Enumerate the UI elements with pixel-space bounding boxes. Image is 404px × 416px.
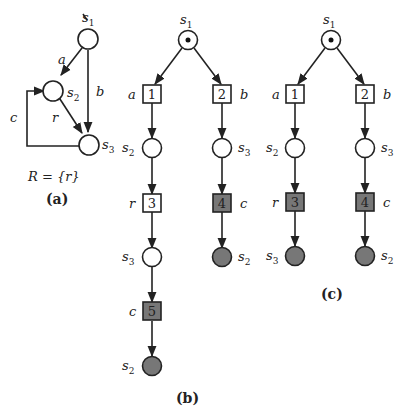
svg-text:s3: s3 [266, 248, 279, 266]
svg-text:s2: s2 [381, 248, 393, 266]
svg-text:s2: s2 [122, 140, 134, 158]
formula: R = {r} [27, 169, 80, 184]
svg-text:s3: s3 [381, 140, 394, 158]
svg-text:5: 5 [148, 304, 156, 319]
condition-s3-cutoff [286, 247, 305, 266]
condition-s3 [143, 248, 162, 267]
svg-text:4: 4 [218, 196, 226, 211]
svg-text:s2: s2 [122, 358, 134, 376]
condition-s2-cutoff [213, 248, 232, 267]
label-edge-r: r [52, 110, 59, 125]
condition-s2-cutoff [356, 247, 375, 266]
svg-text:2: 2 [218, 87, 226, 102]
svg-text:a: a [128, 87, 136, 102]
token [186, 38, 191, 43]
token [329, 38, 334, 43]
panel-c-unfolding: s1 1 a 2 b 3 r 4 c s2 s3 s3 s2 (c) [266, 12, 394, 302]
svg-text:s3: s3 [238, 140, 251, 158]
svg-text:c: c [240, 196, 248, 211]
panel-a-transition-system: s1 s2 s3 a b r c R = {r} (a) [10, 10, 115, 207]
svg-text:a: a [272, 87, 280, 102]
svg-text:c: c [129, 304, 137, 319]
svg-text:c: c [383, 195, 391, 210]
svg-text:1: 1 [148, 87, 156, 102]
svg-text:s3: s3 [122, 249, 135, 267]
unfolding-diagram: s1 s2 s3 a b r c R = {r} (a) s1 1 a 2 b … [0, 0, 404, 416]
condition-s2-cutoff [143, 357, 162, 376]
condition-s2 [143, 139, 162, 158]
condition-s2 [286, 139, 305, 158]
state-s1 [78, 29, 98, 49]
label-edge-c: c [10, 110, 18, 125]
panel-b-unfolding: s1 1 a 2 b 3 r 4 c 5 c s2 s3 s3 s2 [122, 12, 251, 406]
svg-text:b: b [240, 87, 248, 102]
label-root: s1 [180, 12, 192, 30]
svg-text:1: 1 [291, 87, 299, 102]
svg-text:3: 3 [148, 196, 156, 211]
svg-text:s2: s2 [238, 249, 250, 267]
label-s1: s1 [82, 10, 94, 28]
label-edge-b: b [96, 84, 104, 99]
state-s3 [79, 135, 99, 155]
svg-text:b: b [383, 87, 391, 102]
svg-text:4: 4 [361, 195, 369, 210]
condition-s3 [356, 139, 375, 158]
label-s3: s3 [102, 137, 115, 155]
svg-text:2: 2 [361, 87, 369, 102]
state-s2 [43, 81, 63, 101]
caption-a: (a) [46, 191, 68, 207]
svg-text:r: r [272, 195, 279, 210]
svg-text:r: r [129, 196, 136, 211]
svg-text:3: 3 [291, 195, 299, 210]
label-edge-a: a [58, 52, 66, 67]
condition-s3 [213, 139, 232, 158]
caption-b: (b) [176, 390, 199, 406]
caption-c: (c) [321, 286, 343, 302]
label-root: s1 [323, 12, 335, 30]
svg-text:s2: s2 [266, 140, 278, 158]
label-s2: s2 [67, 85, 79, 103]
